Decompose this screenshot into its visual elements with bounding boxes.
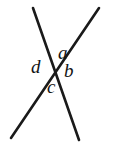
- angle-label-d: d: [31, 57, 41, 76]
- angle-label-c: c: [47, 77, 55, 96]
- angle-label-b: b: [64, 61, 74, 80]
- intersecting-lines-svg: [0, 0, 114, 148]
- geometry-figure: a b c d: [0, 0, 114, 148]
